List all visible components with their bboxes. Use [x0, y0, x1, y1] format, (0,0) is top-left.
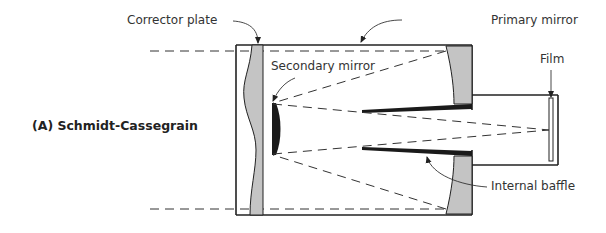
internal-baffle-label: Internal baffle	[491, 179, 575, 193]
corrector-plate	[244, 45, 263, 215]
internal-baffle	[362, 104, 472, 156]
primary-mirror	[446, 46, 472, 214]
secondary-mirror-label: Secondary mirror	[271, 59, 375, 73]
corrector-plate-label: Corrector plate	[127, 13, 217, 27]
primary-mirror-label: Primary mirror	[491, 13, 578, 27]
film	[549, 98, 553, 161]
schmidt-cassegrain-diagram	[0, 0, 606, 233]
film-label: Film	[540, 52, 564, 66]
secondary-mirror	[272, 103, 281, 155]
diagram-title: (A) Schmidt-Cassegrain	[32, 118, 198, 133]
